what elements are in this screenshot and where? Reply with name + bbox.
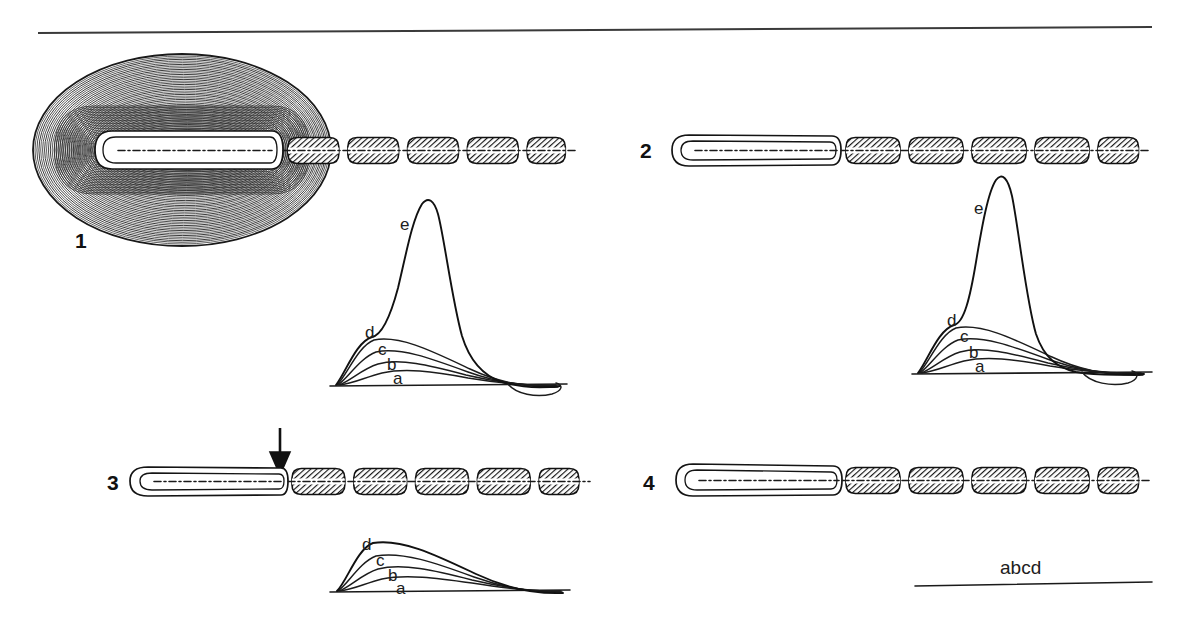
curve-label-a-panel-3: a bbox=[396, 579, 406, 598]
panel-2-trace: e d c b a bbox=[912, 177, 1152, 385]
curve-d-panel-1 bbox=[337, 339, 558, 387]
curve-b-panel-3 bbox=[339, 567, 561, 591]
panel-3: 3 d bbox=[107, 428, 590, 598]
curve-c-panel-1 bbox=[338, 351, 557, 386]
curve-label-d-panel-3: d bbox=[362, 535, 371, 554]
panel-2-fiber bbox=[672, 135, 1150, 166]
curve-label-e-panel-1: e bbox=[400, 215, 409, 234]
curve-label-e-panel-2: e bbox=[974, 199, 983, 218]
curve-c-panel-3 bbox=[338, 555, 562, 592]
panel-4: 4 abcd bbox=[643, 464, 1152, 586]
curve-c-panel-2 bbox=[920, 339, 1142, 374]
curve-a-panel-2 bbox=[922, 359, 1140, 374]
curve-a-panel-1 bbox=[340, 371, 555, 386]
curve-label-a-panel-1: a bbox=[393, 369, 403, 388]
flat-trace-label-panel-4: abcd bbox=[1000, 557, 1041, 578]
panel-1-trace: e d c b a bbox=[330, 200, 567, 396]
panel-3-trace: d c b a bbox=[330, 535, 570, 598]
panel-1-number: 1 bbox=[75, 229, 87, 252]
panel-3-number: 3 bbox=[107, 471, 119, 494]
panel-2: 2 e d c bbox=[640, 135, 1152, 385]
curve-e-panel-2 bbox=[918, 177, 1144, 375]
curve-d-panel-2 bbox=[919, 327, 1143, 375]
panel-1: 1 e d c b a bbox=[33, 54, 576, 396]
curve-label-d-panel-2: d bbox=[947, 311, 956, 330]
panel-4-fiber bbox=[676, 464, 1152, 496]
panel-1-fiber bbox=[95, 131, 576, 169]
figure-root: 1 e d c b a bbox=[0, 0, 1180, 630]
curve-label-d-panel-1: d bbox=[365, 323, 374, 342]
panel-4-trace: abcd bbox=[915, 557, 1152, 586]
top-divider-rule bbox=[38, 27, 1152, 33]
curve-label-c-panel-3: c bbox=[376, 551, 385, 570]
panel-4-number: 4 bbox=[643, 471, 655, 494]
panel-2-number: 2 bbox=[640, 139, 652, 162]
figure-canvas: 1 e d c b a bbox=[0, 0, 1180, 630]
panel-3-fiber bbox=[130, 467, 590, 496]
curve-label-a-panel-2: a bbox=[975, 357, 985, 376]
curve-label-c-panel-1: c bbox=[378, 340, 387, 359]
curve-label-c-panel-2: c bbox=[960, 327, 969, 346]
